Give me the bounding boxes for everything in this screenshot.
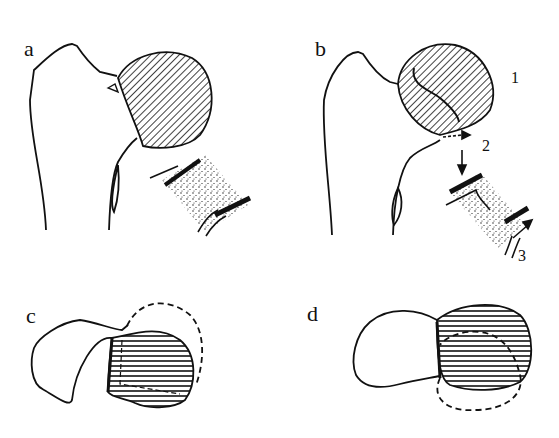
annotation-3: 3 — [518, 248, 526, 264]
femoral-head-a — [118, 52, 212, 148]
annotation-2: 2 — [482, 138, 490, 154]
figure-canvas — [0, 0, 559, 438]
growth-plate-inset-a — [150, 155, 250, 236]
panel-label-b: b — [315, 38, 326, 60]
femoral-head-d — [437, 305, 531, 390]
panel-c-drawing — [32, 303, 202, 407]
panel-label-d: d — [307, 303, 318, 325]
growth-plate-inset-b — [446, 172, 528, 258]
femoral-head-c — [108, 331, 193, 407]
panel-label-a: a — [24, 38, 34, 60]
panel-label-c: c — [26, 305, 36, 327]
annotation-1: 1 — [511, 70, 519, 86]
panel-d-drawing — [354, 305, 532, 410]
femoral-head-b — [398, 44, 493, 135]
